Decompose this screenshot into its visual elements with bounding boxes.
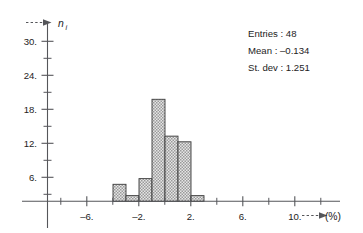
- bar: [165, 136, 178, 201]
- bar: [178, 142, 191, 202]
- bar: [113, 184, 126, 201]
- y-ticklabel: 18.: [24, 104, 37, 115]
- bar: [152, 99, 165, 201]
- histogram-figure: 30. 24. 18. 12. 6. n i: [0, 0, 363, 233]
- stats-box: Entries : 48 Mean : –0.134 St. dev : 1.2…: [248, 28, 310, 73]
- y-axis: [26, 19, 54, 228]
- y-ticklabel: 12.: [24, 138, 37, 149]
- y-axis-title: n i: [58, 18, 68, 32]
- y-ticklabel: 30.: [24, 36, 37, 47]
- stats-mean: Mean : –0.134: [248, 45, 310, 56]
- x-ticklabels: –6. –2. 2. 6. 10. (%): [80, 211, 341, 222]
- histogram-canvas: 30. 24. 18. 12. 6. n i: [0, 0, 363, 233]
- y-ticklabels: 30. 24. 18. 12. 6.: [24, 36, 37, 183]
- stats-entries: Entries : 48: [248, 28, 297, 39]
- bars-group: [113, 99, 204, 201]
- x-ticklabel: 10.: [288, 211, 301, 222]
- x-ticklabel: –2.: [132, 211, 145, 222]
- y-ticklabel: 24.: [24, 70, 37, 81]
- y-ticklabel: 6.: [29, 172, 37, 183]
- bar: [139, 179, 152, 202]
- bar: [191, 196, 204, 202]
- y-axis-title-subscript: i: [66, 23, 68, 32]
- stats-stdev: St. dev : 1.251: [248, 62, 310, 73]
- y-axis-title-symbol: n: [58, 18, 64, 29]
- x-axis-unit-label: (%): [325, 211, 341, 222]
- bar: [126, 196, 139, 202]
- x-ticklabel: –6.: [80, 211, 93, 222]
- x-ticklabel: 2.: [187, 211, 195, 222]
- x-ticklabel: 6.: [239, 211, 247, 222]
